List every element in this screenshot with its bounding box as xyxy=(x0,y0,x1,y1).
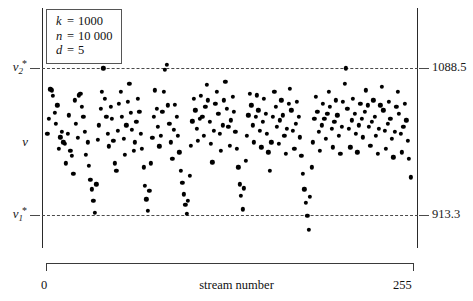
scatter-point xyxy=(258,128,262,132)
scatter-point xyxy=(103,96,107,100)
scatter-point xyxy=(298,135,302,139)
scatter-point xyxy=(81,115,85,119)
scatter-point xyxy=(123,153,127,157)
scatter-point xyxy=(302,187,306,191)
scatter-point xyxy=(291,128,295,132)
scatter-point xyxy=(294,122,298,126)
scatter-point xyxy=(149,161,153,165)
tick-right-upper xyxy=(419,68,429,69)
scatter-point xyxy=(157,144,161,148)
y-label-v2-symbol: v xyxy=(13,59,19,74)
scatter-point xyxy=(263,112,267,116)
scatter-point xyxy=(90,187,94,191)
scatter-point xyxy=(167,122,171,126)
y-value-lower: 913.3 xyxy=(432,207,460,222)
scatter-point xyxy=(45,132,49,136)
scatter-point xyxy=(172,128,176,132)
threshold-line-lower xyxy=(42,215,418,216)
scatter-point xyxy=(150,136,154,140)
scatter-point xyxy=(335,113,339,117)
scatter-point xyxy=(143,184,147,188)
scatter-point xyxy=(84,153,88,157)
scatter-point xyxy=(334,98,338,102)
scatter-point xyxy=(203,105,207,109)
scatter-point xyxy=(319,123,323,127)
scatter-point xyxy=(308,195,312,199)
scatter-point xyxy=(50,88,54,92)
scatter-point xyxy=(304,201,308,205)
scatter-point xyxy=(169,140,173,144)
scatter-point xyxy=(387,100,391,104)
scatter-point xyxy=(348,145,352,149)
scatter-point xyxy=(189,143,193,147)
scatter-point xyxy=(111,138,115,142)
scatter-point xyxy=(85,140,89,144)
scatter-point xyxy=(151,115,155,119)
scatter-point xyxy=(256,108,260,112)
scatter-point xyxy=(299,154,303,158)
scatter-point xyxy=(190,119,194,123)
scatter-point xyxy=(401,125,405,129)
legend-equals-k: = xyxy=(65,14,78,28)
scatter-plot-figure: v2* v v1* 1088.5 913.3 k=1000 n=10 000 d… xyxy=(0,0,473,301)
scatter-point xyxy=(281,113,285,117)
legend-row-n: n=10 000 xyxy=(56,29,112,44)
scatter-point xyxy=(364,88,368,92)
scatter-point xyxy=(351,96,355,100)
scatter-point xyxy=(239,194,243,198)
scatter-point xyxy=(243,159,247,163)
scatter-point xyxy=(393,130,397,134)
y-axis-label-v: v xyxy=(4,134,28,150)
scatter-point xyxy=(340,125,344,129)
scatter-point xyxy=(394,105,398,109)
scatter-point xyxy=(222,98,226,102)
scatter-point xyxy=(324,137,328,141)
scatter-point xyxy=(345,107,349,111)
scatter-point xyxy=(374,133,378,137)
legend-row-k: k=1000 xyxy=(56,14,112,29)
scatter-point xyxy=(74,122,78,126)
scatter-point xyxy=(321,102,325,106)
scatter-point xyxy=(276,142,280,146)
scatter-point xyxy=(126,100,130,104)
legend-symbol-n: n xyxy=(56,29,65,44)
scatter-point xyxy=(134,120,138,124)
scatter-point xyxy=(210,160,214,164)
scatter-point xyxy=(235,147,239,151)
scatter-point xyxy=(354,132,358,136)
scatter-point xyxy=(327,90,331,94)
scatter-point xyxy=(362,110,366,114)
scatter-point xyxy=(371,98,375,102)
scatter-point xyxy=(206,98,210,102)
scatter-point xyxy=(272,90,276,94)
scatter-point xyxy=(77,93,81,97)
tick-right-lower xyxy=(419,215,429,216)
scatter-point xyxy=(248,91,252,95)
scatter-point xyxy=(288,86,292,90)
scatter-point xyxy=(365,103,369,107)
scatter-point xyxy=(230,95,234,99)
scatter-point xyxy=(139,132,143,136)
scatter-point xyxy=(223,80,227,84)
scatter-point xyxy=(380,85,384,89)
legend-symbol-d: d xyxy=(56,43,65,58)
scatter-point xyxy=(311,140,315,144)
scatter-point xyxy=(268,169,272,173)
tick-left-lower xyxy=(30,215,40,216)
scatter-point xyxy=(315,110,319,114)
scatter-point xyxy=(133,140,137,144)
scatter-point xyxy=(116,128,120,132)
scatter-point xyxy=(275,125,279,129)
scatter-point xyxy=(367,125,371,129)
scatter-point xyxy=(156,125,160,129)
scatter-point xyxy=(71,172,75,176)
scatter-point xyxy=(160,110,164,114)
scatter-point xyxy=(384,147,388,151)
scatter-point xyxy=(73,98,77,102)
scatter-point xyxy=(397,112,401,116)
scatter-point xyxy=(328,105,332,109)
x-axis-min-label: 0 xyxy=(41,278,47,293)
scatter-point xyxy=(245,133,249,137)
scatter-point xyxy=(146,209,150,213)
x-axis-bracket xyxy=(46,263,414,271)
